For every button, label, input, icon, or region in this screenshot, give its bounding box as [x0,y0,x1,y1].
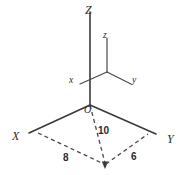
y-extent-dashed-line [106,134,148,164]
label-global-y-axis: Y [167,133,174,145]
coordinate-system-figure: Z X Y z x y O 10 8 6 [0,0,187,175]
label-local-y-axis: y [132,76,136,86]
local-x-axis-line [80,72,107,84]
label-origin: O [84,105,91,115]
label-global-x-axis: X [12,130,19,142]
x-extent-dashed-line [38,133,104,164]
label-local-x-axis: x [69,76,73,86]
label-local-z-axis: z [103,31,107,41]
local-y-axis-line [107,72,131,84]
label-dimension-y-extent: 6 [131,152,137,162]
figure-canvas [0,0,187,175]
label-global-z-axis: Z [85,4,92,16]
global-x-axis-line [29,105,90,133]
label-dimension-height: 10 [98,126,109,136]
label-dimension-x-extent: 8 [63,153,69,163]
